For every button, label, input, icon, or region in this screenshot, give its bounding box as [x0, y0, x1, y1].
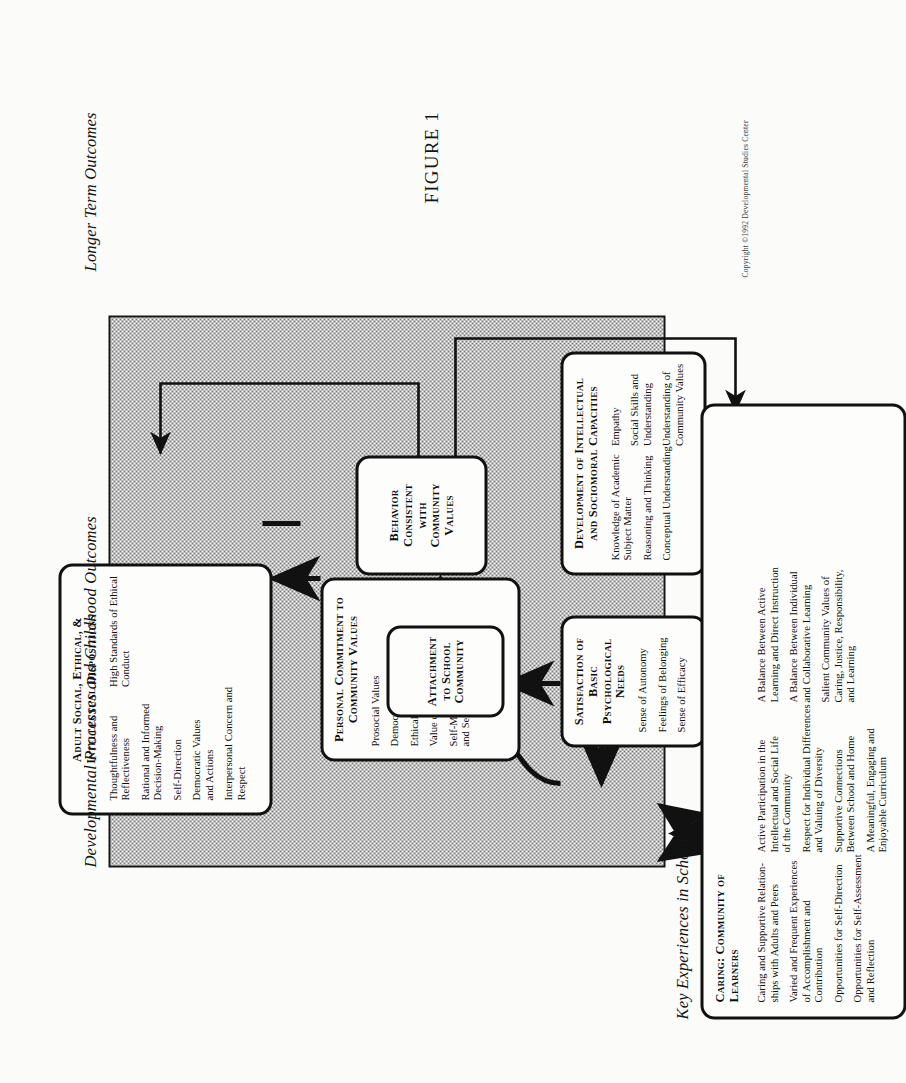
section-header-developmental: Developmental Processes and Childhood Ou… — [80, 516, 100, 867]
list-item: Caring and Supportive Relation- ships wi… — [755, 852, 780, 1002]
box-satisfaction-needs-title: Satisfaction of Basic Psychological Need… — [572, 630, 627, 732]
list-item: Opportunities for Self-Assessment and Re… — [851, 852, 876, 1002]
list-item: Reasoning and Thinking — [641, 446, 654, 560]
list-item: A Balance Between Individual and Collabo… — [787, 552, 812, 702]
list-item: Self-Direction — [171, 686, 184, 800]
list-item: High Standards of Ethical Conduct — [107, 575, 132, 686]
copyright-notice: Copyright ©1992 Developmental Studies Ce… — [740, 120, 749, 277]
list-item: Salient Community Values of Caring, Just… — [819, 552, 857, 702]
list-item: Feelings of Belonging — [656, 637, 669, 732]
box-caring-community[interactable]: Caring: Community of Learners Caring and… — [700, 403, 906, 1019]
box-behavior-consistent-title: Behavior Consistent with Community Value… — [387, 470, 456, 560]
list-item: A Meaningful, Engaging and Enjoyable Cur… — [864, 702, 889, 852]
list-item: Conceptual Understanding — [660, 446, 673, 560]
list-item: Prosocial Values — [369, 665, 382, 746]
box-personal-commitment-title: Personal Commitment to Community Values — [332, 592, 360, 746]
box-development-capacities-title: Development of Intellectual and Sociomor… — [572, 366, 600, 560]
list-item: Thoughtfulness and Reflectiveness — [107, 686, 132, 800]
list-item: Empathy — [609, 363, 622, 445]
list-item: Rational and Informed Decision-Making — [139, 686, 164, 800]
section-header-key-experiences: Key Experiences in School — [672, 838, 692, 1019]
list-item: Respect for Individual Differences and V… — [800, 702, 825, 852]
box-satisfaction-needs[interactable]: Satisfaction of Basic Psychological Need… — [560, 615, 706, 747]
list-item: Varied and Frequent Experiences of Accom… — [787, 852, 825, 1002]
list-item: Interpersonal Concern and Respect — [222, 686, 247, 800]
list-item: Social Skills and Understanding — [628, 363, 653, 445]
figure-caption: FIGURE 1 — [420, 111, 442, 203]
box-caring-community-title: Caring: Community of Learners — [713, 852, 741, 1002]
list-item: Opportunities for Self-Direction — [832, 852, 845, 1002]
list-item: Sense of Autonomy — [636, 637, 649, 732]
list-item: Understanding of Community Values — [660, 363, 685, 445]
box-attachment-title: Attachment to School Community — [425, 636, 466, 706]
section-header-longer-term: Longer Term Outcomes — [80, 112, 100, 271]
box-development-capacities[interactable]: Development of Intellectual and Sociomor… — [560, 351, 706, 575]
list-item: Active Participation in the Intellectual… — [755, 702, 793, 852]
list-item: Democratic Values and Actions — [190, 686, 215, 800]
list-item: Sense of Efficacy — [675, 637, 688, 732]
list-item: A Balance Between Active Learning and Di… — [755, 552, 780, 702]
list-item: Supportive Connections Between School an… — [832, 702, 857, 852]
box-behavior-consistent[interactable]: Behavior Consistent with Community Value… — [355, 455, 487, 575]
box-attachment[interactable]: Attachment to School Community — [386, 625, 504, 717]
list-item: Knowledge of Academic Subject Matter — [609, 446, 634, 560]
